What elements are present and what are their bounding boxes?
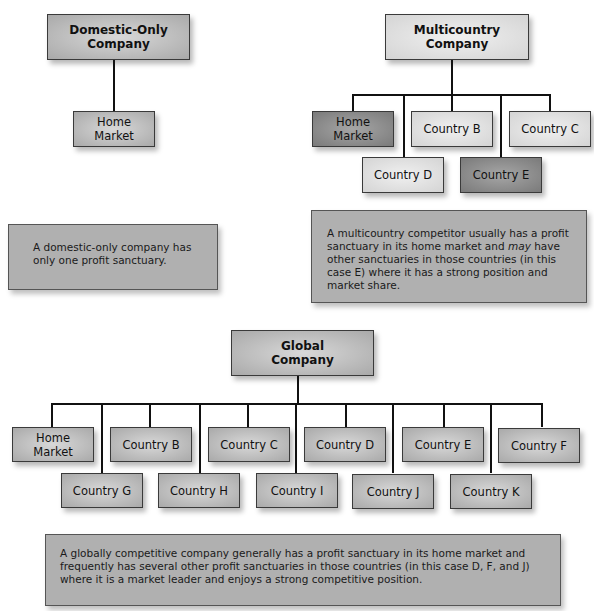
multicountry-home-market-box: Home Market	[312, 111, 394, 147]
node-label: Home Market	[23, 431, 83, 459]
multicountry-description-emphasis: may	[508, 240, 531, 252]
multicountry-country-b-box: Country B	[411, 111, 493, 147]
node-label: Country D	[316, 438, 374, 452]
connector	[352, 94, 354, 111]
global-description-box: A globally competitive company generally…	[45, 534, 561, 606]
multicountry-description-box: A multicountry competitor usually has a …	[311, 210, 587, 303]
domestic-connector	[113, 60, 115, 111]
domestic-company-title-box: Domestic-Only Company	[47, 14, 190, 60]
connector	[149, 403, 151, 427]
connector	[51, 403, 53, 427]
connector	[500, 94, 502, 157]
node-label: Country B	[423, 122, 480, 136]
connector	[490, 403, 492, 473]
global-trunk	[297, 376, 299, 405]
global-country-d-box: Country D	[304, 427, 386, 462]
global-bar	[51, 403, 543, 405]
global-description: A globally competitive company generally…	[60, 547, 530, 585]
node-label: Country C	[220, 438, 277, 452]
connector	[295, 403, 297, 473]
connector	[199, 403, 201, 473]
domestic-description: A domestic-only company has only one pro…	[33, 241, 197, 267]
node-label: Country J	[367, 485, 420, 499]
global-country-f-box: Country F	[498, 428, 580, 463]
node-label: Country C	[521, 122, 578, 136]
global-country-e-box: Country E	[402, 427, 484, 462]
node-label: Country F	[511, 439, 567, 453]
connector	[403, 94, 405, 157]
node-label: Country E	[473, 168, 530, 182]
node-label: Country E	[415, 438, 472, 452]
global-home-market-box: Home Market	[12, 427, 94, 462]
global-company-title: Global Company	[268, 339, 338, 367]
node-label: Home Market	[323, 115, 383, 143]
multicountry-country-d-box: Country D	[362, 157, 444, 193]
multicountry-country-c-box: Country C	[509, 111, 591, 147]
node-label: Country G	[73, 484, 131, 498]
multicountry-company-title-box: Multicountry Company	[385, 14, 529, 60]
connector	[451, 94, 453, 111]
global-country-i-box: Country I	[256, 473, 338, 508]
connector	[345, 403, 347, 427]
node-label: Country H	[170, 484, 228, 498]
node-label: Home Market	[84, 115, 144, 143]
connector	[541, 403, 543, 427]
domestic-description-box: A domestic-only company has only one pro…	[8, 224, 218, 290]
global-company-title-box: Global Company	[231, 330, 374, 376]
connector	[101, 403, 103, 473]
domestic-home-market-box: Home Market	[73, 111, 155, 147]
global-country-b-box: Country B	[110, 427, 192, 462]
connector	[392, 403, 394, 473]
global-country-k-box: Country K	[450, 474, 532, 509]
connector	[247, 403, 249, 427]
node-label: Country K	[463, 485, 520, 499]
multicountry-trunk	[451, 60, 453, 96]
global-country-j-box: Country J	[352, 474, 434, 509]
node-label: Country D	[374, 168, 432, 182]
global-country-c-box: Country C	[208, 427, 290, 462]
multicountry-country-e-box: Country E	[460, 157, 542, 193]
node-label: Country B	[122, 438, 179, 452]
connector	[443, 403, 445, 427]
multicountry-company-title: Multicountry Company	[402, 23, 512, 51]
domestic-company-title: Domestic-Only Company	[61, 23, 176, 51]
global-country-g-box: Country G	[61, 473, 143, 508]
connector	[549, 94, 551, 111]
global-country-h-box: Country H	[158, 473, 240, 508]
node-label: Country I	[271, 484, 324, 498]
